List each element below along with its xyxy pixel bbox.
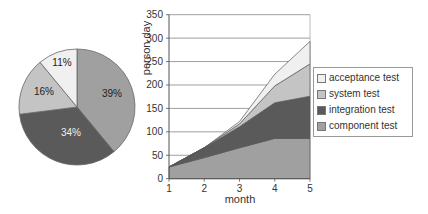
legend-label: system test: [329, 86, 380, 102]
y-tick-label: 200: [146, 79, 163, 90]
pie-chart: [19, 49, 135, 165]
legend-item-system: system test: [317, 86, 409, 102]
x-axis-label: month: [225, 193, 256, 205]
legend-swatch-integration: [317, 106, 326, 115]
x-tick-label: 1: [166, 183, 172, 194]
pie-label-integration: 34%: [61, 127, 81, 138]
pie-label-acceptance: 11%: [52, 57, 71, 68]
y-axis-label: person day: [140, 20, 152, 75]
x-tick-label: 4: [272, 183, 278, 194]
x-tick-label: 2: [201, 183, 207, 194]
y-tick-label: 150: [146, 103, 163, 114]
legend-swatch-acceptance: [317, 74, 326, 83]
pie-label-system: 16%: [34, 86, 54, 97]
x-tick-labels: 12345: [166, 179, 313, 194]
legend-item-integration: integration test: [317, 102, 409, 118]
chart-figure: 39% 34% 16% 11% 050100150200250300350 12…: [0, 0, 428, 214]
legend-label: acceptance test: [329, 70, 399, 86]
area-chart: 050100150200250300350 12345 month person…: [140, 9, 313, 205]
y-tick-label: 0: [157, 173, 163, 184]
y-tick-label: 100: [146, 126, 163, 137]
chart-legend: acceptance test system test integration …: [313, 67, 413, 137]
legend-item-component: component test: [317, 118, 409, 134]
stacked-areas: [169, 41, 310, 178]
y-tick-label: 50: [152, 150, 164, 161]
legend-item-acceptance: acceptance test: [317, 70, 409, 86]
legend-swatch-system: [317, 90, 326, 99]
y-tick-label: 350: [146, 9, 163, 20]
x-tick-label: 5: [307, 183, 313, 194]
legend-label: integration test: [329, 102, 395, 118]
legend-label: component test: [329, 118, 397, 134]
pie-label-component: 39%: [102, 88, 122, 99]
legend-swatch-component: [317, 122, 326, 131]
